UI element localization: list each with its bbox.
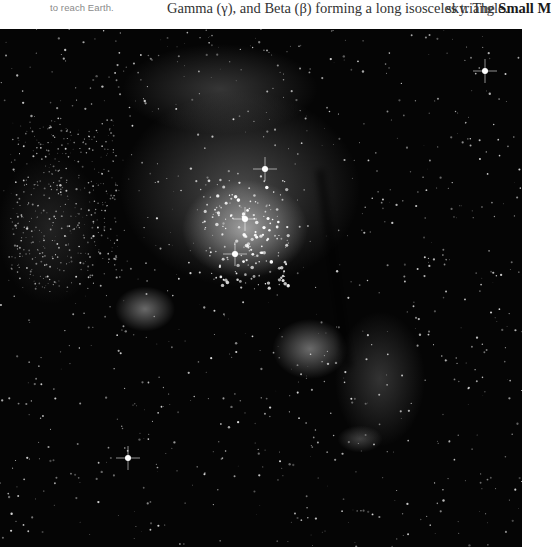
star-field xyxy=(0,29,522,547)
body-text-right-prefix: sky. The xyxy=(446,0,498,16)
text-strip: to reach Earth. Gamma (γ), and Beta (β) … xyxy=(0,0,532,28)
image-caption-fragment: to reach Earth. xyxy=(50,2,114,13)
body-text-right-column: sky. The Small M xyxy=(446,0,551,17)
body-text-right-bold: Small M xyxy=(498,0,551,16)
nebula-photograph xyxy=(0,29,522,547)
